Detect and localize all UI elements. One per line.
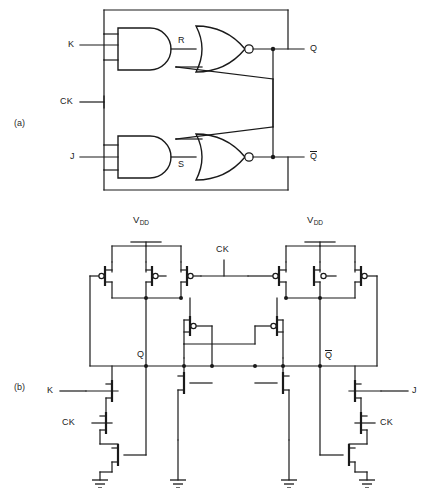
label-vdd-left: VDD (133, 215, 149, 227)
figure-panel-b: (b) VDD VDD CK Q Q K J CK CK (0, 0, 436, 488)
nmos-left-ck (92, 412, 112, 444)
pmos-right-2 (314, 262, 336, 298)
label-ck-right: CK (380, 418, 393, 427)
pmos-left-1 (90, 262, 112, 298)
label-ck-left: CK (62, 418, 75, 427)
label-j-b: J (412, 386, 417, 395)
vdd-rail-right (286, 242, 355, 262)
vdd-rail-left (112, 242, 181, 262)
label-vdd-right: VDD (307, 215, 323, 227)
nmos-right-ck (355, 412, 375, 444)
ground-1 (92, 472, 112, 488)
panel-tag-b: (b) (14, 382, 25, 392)
nmos-right-j (349, 366, 381, 412)
pmos-left-3 (181, 262, 201, 298)
label-ck-center: CK (216, 245, 229, 254)
pmos-center-left (184, 298, 212, 358)
pmos-center-right (255, 298, 283, 358)
label-k-b: K (47, 386, 53, 395)
nmos-center-right (255, 358, 289, 440)
pmos-right-3 (355, 262, 377, 298)
nmos-left-k (86, 366, 118, 412)
nmos-center-left (178, 358, 212, 440)
label-q-b: Q (137, 350, 144, 359)
ck-bus (201, 260, 248, 276)
ground-4 (355, 472, 375, 488)
label-qbar-b: Q (325, 350, 332, 360)
pmos-left-2 (146, 262, 166, 298)
ground-2 (170, 440, 186, 488)
pmos-right-1 (248, 262, 286, 298)
ground-3 (281, 440, 297, 488)
